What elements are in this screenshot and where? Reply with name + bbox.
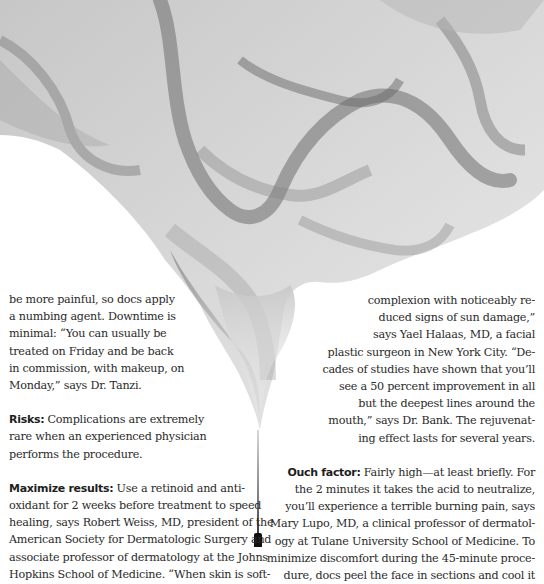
body-line: minimize discomfort during the 45-minute… bbox=[265, 550, 535, 567]
body-line: treated on Friday and be back bbox=[9, 343, 271, 360]
ouch-label: Ouch factor: bbox=[287, 466, 360, 479]
risks-label: Risks: bbox=[9, 413, 44, 426]
body-line: healing, says Robert Weiss, MD, presiden… bbox=[9, 514, 271, 531]
body-line: plastic surgeon in New York City. “De- bbox=[265, 344, 535, 361]
body-line: complexion with noticeably re- bbox=[265, 292, 535, 309]
body-line: rare when an experienced physician bbox=[9, 428, 271, 445]
body-line: cades of studies have shown that you’ll bbox=[265, 361, 535, 378]
body-line: you’ll experience a terrible burning pai… bbox=[265, 498, 535, 515]
body-line: dure, docs peel the face in sections and… bbox=[265, 567, 535, 584]
body-line: the 2 minutes it takes the acid to neutr… bbox=[265, 481, 535, 498]
body-line: mouth,” says Dr. Bank. The rejuvenat- bbox=[265, 412, 535, 429]
body-line: see a 50 percent improvement in all bbox=[265, 378, 535, 395]
body-line: American Society for Dermatologic Surger… bbox=[9, 531, 271, 548]
ouch-paragraph: Ouch factor: Fairly high—at least briefl… bbox=[265, 464, 535, 481]
body-line: in commission, with makeup, on bbox=[9, 360, 271, 377]
body-line: duced signs of sun damage,” bbox=[265, 309, 535, 326]
risks-paragraph: Risks: Complications are extremely bbox=[9, 411, 271, 428]
right-column: complexion with noticeably re- duced sig… bbox=[265, 292, 535, 584]
body-line: Monday,” says Dr. Tanzi. bbox=[9, 377, 271, 394]
body-line: performs the procedure. bbox=[9, 446, 271, 463]
maximize-label: Maximize results: bbox=[9, 482, 113, 495]
body-line: oxidant for 2 weeks before treatment to … bbox=[9, 497, 271, 514]
body-line: but the deepest lines around the bbox=[265, 395, 535, 412]
body-line: associate professor of dermatology at th… bbox=[9, 549, 271, 566]
body-line: ing effect lasts for several years. bbox=[265, 430, 535, 447]
maximize-paragraph: Maximize results: Use a retinoid and ant… bbox=[9, 480, 271, 497]
body-line: a numbing agent. Downtime is bbox=[9, 308, 271, 325]
body-line: Hopkins School of Medicine. “When skin i… bbox=[9, 566, 271, 583]
body-line: says Yael Halaas, MD, a facial bbox=[265, 326, 535, 343]
left-column: be more painful, so docs apply a numbing… bbox=[9, 291, 271, 583]
body-line: Mary Lupo, MD, a clinical professor of d… bbox=[265, 515, 535, 532]
body-line: ogy at Tulane University School of Medic… bbox=[265, 533, 535, 550]
body-line: minimal: “You can usually be bbox=[9, 325, 271, 342]
body-line: be more painful, so docs apply bbox=[9, 291, 271, 308]
